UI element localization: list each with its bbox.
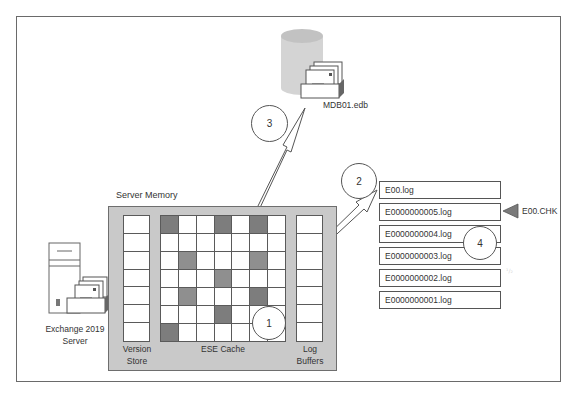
server-label-line2: Server: [40, 335, 110, 347]
ese-cache-page-dirty: [215, 270, 232, 287]
ese-cache-page-dirty: [250, 252, 267, 269]
ese-cache-page: [232, 288, 249, 305]
log-file: E0000000001.log: [379, 291, 501, 309]
ese-cache-page: [179, 324, 196, 341]
ese-cache-page-dirty: [250, 288, 267, 305]
ese-cache-page: [215, 324, 232, 341]
ese-cache-page: [232, 252, 249, 269]
ese-cache-page: [250, 234, 267, 251]
ese-cache-page: [179, 216, 196, 233]
step-circle-4: 4: [463, 226, 497, 260]
log-buffers-label-line2: Buffers: [289, 355, 331, 367]
log-file-current: E00.log: [379, 181, 501, 199]
ese-cache-page: [215, 234, 232, 251]
version-store-slot: [124, 270, 149, 288]
faint-mark: ¹/₂: [506, 267, 513, 274]
version-store-slot: [124, 252, 149, 270]
ese-cache-page-dirty: [250, 216, 267, 233]
log-buffers-label: Log Buffers: [289, 343, 331, 367]
ese-cache-page-dirty: [179, 288, 196, 305]
ese-cache-page: [197, 252, 214, 269]
ese-cache-page: [161, 270, 178, 287]
ese-cache-page: [232, 306, 249, 323]
ese-cache-page: [268, 216, 285, 233]
ese-cache-page: [179, 306, 196, 323]
ese-cache-page: [179, 234, 196, 251]
log-buffer-slot: [297, 287, 322, 305]
server-memory-box: Version Store ESE Cache Log Buffers: [108, 206, 337, 371]
ese-cache-label: ESE Cache: [160, 343, 286, 355]
ese-cache-page: [161, 288, 178, 305]
version-store-slot: [124, 287, 149, 305]
log-buffers-column: [296, 215, 323, 342]
step-circle-3: 3: [251, 105, 288, 142]
ese-cache-page: [268, 288, 285, 305]
ese-cache-page-dirty: [161, 216, 178, 233]
version-store-label-line1: Version: [115, 343, 159, 355]
log-buffer-slot: [297, 305, 322, 323]
ese-cache-page: [250, 270, 267, 287]
log-buffer-slot: [297, 270, 322, 288]
ese-cache-page: [215, 252, 232, 269]
ese-cache-page: [161, 252, 178, 269]
ese-cache-page-dirty: [215, 306, 232, 323]
step-circle-2: 2: [341, 163, 377, 199]
ese-cache-page: [232, 216, 249, 233]
log-buffers-label-line1: Log: [289, 343, 331, 355]
log-buffer-slot: [297, 323, 322, 341]
ese-cache-page: [197, 270, 214, 287]
ese-cache-page-dirty: [215, 216, 232, 233]
version-store-slot: [124, 323, 149, 341]
server-label: Exchange 2019 Server: [40, 323, 110, 347]
server-memory-label: Server Memory: [116, 190, 178, 200]
version-store-label-line2: Store: [115, 355, 159, 367]
ese-cache-page: [179, 270, 196, 287]
step-circle-1: 1: [252, 306, 286, 340]
ese-cache-page: [268, 252, 285, 269]
log-file: E0000000002.log: [379, 269, 501, 287]
checkpoint-pointer-icon: [503, 204, 518, 218]
database-label: MDB01.edb: [323, 100, 368, 110]
ese-cache-page-dirty: [179, 252, 196, 269]
version-store-slot: [124, 305, 149, 323]
ese-cache-page: [232, 324, 249, 341]
server-label-line1: Exchange 2019: [40, 323, 110, 335]
ese-cache-page: [197, 288, 214, 305]
log-buffer-slot: [297, 234, 322, 252]
ese-cache-page: [161, 234, 178, 251]
ese-cache-page: [268, 270, 285, 287]
version-store-slot: [124, 234, 149, 252]
ese-cache-page-dirty: [161, 324, 178, 341]
log-buffer-slot: [297, 252, 322, 270]
log-file: E0000000005.log: [379, 203, 501, 221]
ese-cache-page: [161, 306, 178, 323]
ese-cache-page: [215, 288, 232, 305]
version-store-column: [123, 215, 150, 342]
ese-cache-page: [232, 270, 249, 287]
log-buffer-slot: [297, 216, 322, 234]
ese-cache-page: [197, 234, 214, 251]
ese-cache-page: [197, 216, 214, 233]
version-store-label: Version Store: [115, 343, 159, 367]
version-store-slot: [124, 216, 149, 234]
checkpoint-label: E00.CHK: [522, 206, 557, 216]
ese-cache-page: [232, 234, 249, 251]
ese-cache-page: [197, 306, 214, 323]
ese-cache-page: [197, 324, 214, 341]
ese-cache-page: [268, 234, 285, 251]
